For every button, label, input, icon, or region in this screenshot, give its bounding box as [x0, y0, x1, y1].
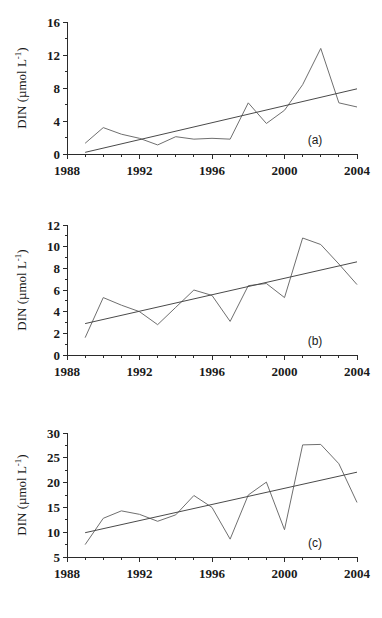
chart-panel-a: 048121619881992199620002004DIN (µmol L-1…: [0, 0, 382, 206]
y-axis-title-a: DIN (µmol L-1): [13, 47, 29, 128]
y-axis-title-c: DIN (µmol L-1): [13, 454, 29, 535]
x-tick-label-b-4: 2004: [344, 364, 371, 379]
data-line-b: [85, 238, 357, 338]
plot-area-b: 02468101219881992199620002004DIN (µmol L…: [13, 218, 371, 380]
y-tick-label-b-2: 4: [54, 304, 61, 319]
x-tick-label-b-2: 1996: [199, 364, 226, 379]
chart-svg-c: 5101520253019881992199620002004DIN (µmol…: [0, 405, 382, 618]
y-tick-label-b-5: 10: [47, 239, 60, 254]
y-axis-title-b: DIN (µmol L-1): [13, 249, 29, 330]
panel-label-a: (a): [308, 133, 323, 147]
y-tick-label-a-4: 16: [47, 15, 61, 30]
y-tick-label-c-1: 10: [47, 525, 60, 540]
y-tick-label-c-4: 25: [47, 450, 61, 465]
chart-svg-a: 048121619881992199620002004DIN (µmol L-1…: [0, 0, 382, 206]
y-tick-label-b-1: 2: [54, 326, 61, 341]
x-tick-label-c-3: 2000: [272, 566, 298, 581]
x-tick-label-c-2: 1996: [199, 566, 226, 581]
x-tick-label-a-4: 2004: [344, 163, 371, 178]
x-tick-label-c-0: 1988: [54, 566, 81, 581]
y-tick-label-b-6: 12: [47, 218, 60, 233]
x-tick-label-b-3: 2000: [272, 364, 298, 379]
y-tick-label-a-3: 12: [47, 48, 60, 63]
panel-label-c: (c): [308, 536, 322, 550]
y-tick-label-c-2: 15: [47, 500, 61, 515]
plot-area-a: 048121619881992199620002004DIN (µmol L-1…: [13, 15, 371, 179]
y-tick-label-a-1: 4: [54, 114, 61, 129]
plot-area-c: 5101520253019881992199620002004DIN (µmol…: [13, 426, 371, 582]
y-tick-label-b-3: 6: [54, 283, 61, 298]
y-tick-label-b-0: 0: [54, 348, 61, 363]
x-tick-label-b-1: 1992: [127, 364, 153, 379]
data-line-a: [85, 48, 357, 145]
y-tick-label-c-0: 5: [54, 550, 61, 565]
data-line-c: [85, 444, 357, 544]
y-tick-label-a-2: 8: [54, 81, 61, 96]
x-tick-label-a-3: 2000: [272, 163, 298, 178]
panel-label-b: (b): [308, 334, 323, 348]
x-tick-label-a-0: 1988: [54, 163, 81, 178]
y-tick-label-b-4: 8: [54, 261, 61, 276]
y-tick-label-c-5: 30: [47, 426, 60, 441]
chart-svg-b: 02468101219881992199620002004DIN (µmol L…: [0, 200, 382, 406]
y-tick-label-a-0: 0: [54, 147, 61, 162]
x-tick-label-c-1: 1992: [127, 566, 153, 581]
chart-panel-c: 5101520253019881992199620002004DIN (µmol…: [0, 405, 382, 618]
y-tick-label-c-3: 20: [47, 475, 60, 490]
x-tick-label-a-2: 1996: [199, 163, 226, 178]
figure-container: 048121619881992199620002004DIN (µmol L-1…: [0, 0, 382, 618]
x-tick-label-c-4: 2004: [344, 566, 371, 581]
chart-panel-b: 02468101219881992199620002004DIN (µmol L…: [0, 200, 382, 406]
trend-line-b: [85, 262, 357, 324]
x-tick-label-a-1: 1992: [127, 163, 153, 178]
x-tick-label-b-0: 1988: [54, 364, 81, 379]
